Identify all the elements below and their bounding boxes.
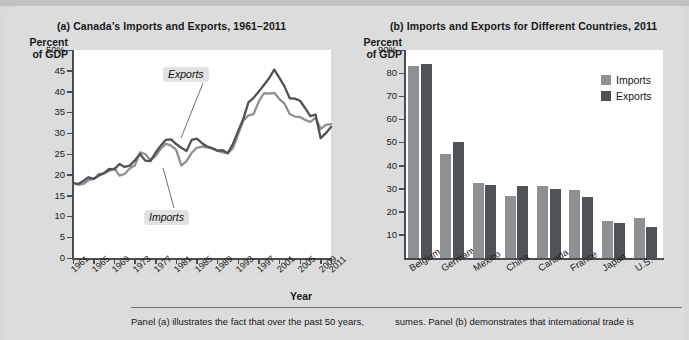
panel-b-y-tick-label: 40 bbox=[345, 160, 397, 171]
bar-imports-japan bbox=[602, 221, 613, 258]
panel-a-y-tick bbox=[67, 70, 73, 72]
panel-b-y-tick bbox=[399, 165, 405, 167]
caption-left-column: Panel (a) illustrates the fact that over… bbox=[131, 316, 381, 328]
figure-container: (a) Canada’s Imports and Exports, 1961–2… bbox=[0, 0, 689, 340]
panel-b-y-tick-label: 20 bbox=[345, 206, 397, 217]
bar-imports-belgium bbox=[408, 66, 419, 258]
panel-b-y-tick-label: 90% bbox=[345, 44, 397, 55]
bar-exports-belgium bbox=[421, 64, 432, 258]
panel-a-y-tick-label: 45 bbox=[13, 65, 65, 76]
imports-callout: Imports bbox=[144, 210, 189, 225]
panel-b-y-tick-label: 50 bbox=[345, 136, 397, 147]
bar-exports-germany bbox=[453, 142, 464, 258]
panel-a-y-tick-label: 25 bbox=[13, 148, 65, 159]
panel-a-y-tick-label: 30 bbox=[13, 127, 65, 138]
panel-a-y-tick bbox=[67, 50, 73, 52]
panel-b-y-tick bbox=[399, 119, 405, 121]
bar-imports-china bbox=[505, 196, 516, 258]
caption-right-column: sumes. Panel (b) demonstrates that inter… bbox=[395, 316, 680, 328]
panel-a-y-tick bbox=[67, 112, 73, 114]
panel-b-y-tick-label: 60 bbox=[345, 113, 397, 124]
panel-a-y-tick-label: 0 bbox=[13, 252, 65, 263]
panel-a-y-tick bbox=[67, 174, 73, 176]
bar-imports-mexico bbox=[473, 183, 484, 258]
panel-a-y-tick bbox=[67, 195, 73, 197]
panel-b-y-tick bbox=[399, 50, 405, 52]
bar-exports-china bbox=[517, 186, 528, 258]
legend-label-exports: Exports bbox=[616, 90, 652, 102]
panel-a-y-tick-label: 35 bbox=[13, 106, 65, 117]
bar-exports-mexico bbox=[485, 185, 496, 258]
bar-imports-us bbox=[634, 218, 645, 258]
bar-imports-france bbox=[569, 190, 580, 258]
panel-a-y-tick-label: 20 bbox=[13, 169, 65, 180]
panel-b-y-tick bbox=[399, 188, 405, 190]
panel-b-y-tick bbox=[399, 96, 405, 98]
panel-b-y-tick-label: 10 bbox=[345, 229, 397, 240]
bar-imports-canada bbox=[537, 186, 548, 258]
panel-b-y-tick bbox=[399, 73, 405, 75]
panel-b-y-tick bbox=[399, 142, 405, 144]
panel-a-y-tick bbox=[67, 91, 73, 93]
panel-b-y-tick-label: 30 bbox=[345, 183, 397, 194]
panel-a-title: (a) Canada’s Imports and Exports, 1961–2… bbox=[57, 20, 286, 32]
panel-a-y-tick bbox=[67, 133, 73, 135]
legend-item-imports: Imports bbox=[601, 74, 651, 86]
exports-callout: Exports bbox=[163, 67, 209, 82]
panel-a-y-tick-label: 50% bbox=[13, 44, 65, 55]
panel-b-y-tick-label: 80 bbox=[345, 67, 397, 78]
panel-b-y-tick bbox=[399, 211, 405, 213]
panel-a-y-tick-label: 15 bbox=[13, 190, 65, 201]
panel-b-y-tick bbox=[399, 234, 405, 236]
panel-a-y-tick-label: 40 bbox=[13, 86, 65, 97]
bar-exports-canada bbox=[550, 189, 561, 258]
legend-swatch-exports bbox=[601, 91, 611, 101]
panel-a-y-tick bbox=[67, 154, 73, 156]
caption-divider bbox=[131, 307, 682, 308]
panel-a-x-axis-label: Year bbox=[290, 290, 312, 302]
panel-a-y-tick bbox=[67, 216, 73, 218]
panel-b-y-tick-label: 70 bbox=[345, 90, 397, 101]
panel-a-y-tick-label: 5 bbox=[13, 231, 65, 242]
legend-item-exports: Exports bbox=[601, 90, 652, 102]
legend-label-imports: Imports bbox=[616, 74, 651, 86]
legend-swatch-imports bbox=[601, 75, 611, 85]
panel-a-y-tick bbox=[67, 237, 73, 239]
bar-imports-germany bbox=[440, 154, 451, 258]
panel-b-y-axis bbox=[404, 50, 406, 259]
panel-b-title: (b) Imports and Exports for Different Co… bbox=[390, 20, 657, 32]
panel-a-y-tick-label: 10 bbox=[13, 210, 65, 221]
